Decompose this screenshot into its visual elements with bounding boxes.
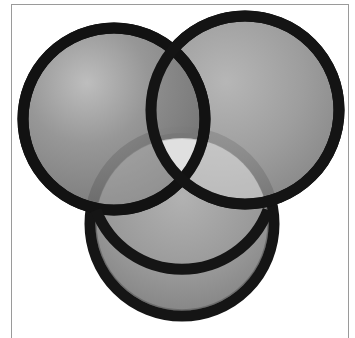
- filters-photo: [0, 0, 355, 336]
